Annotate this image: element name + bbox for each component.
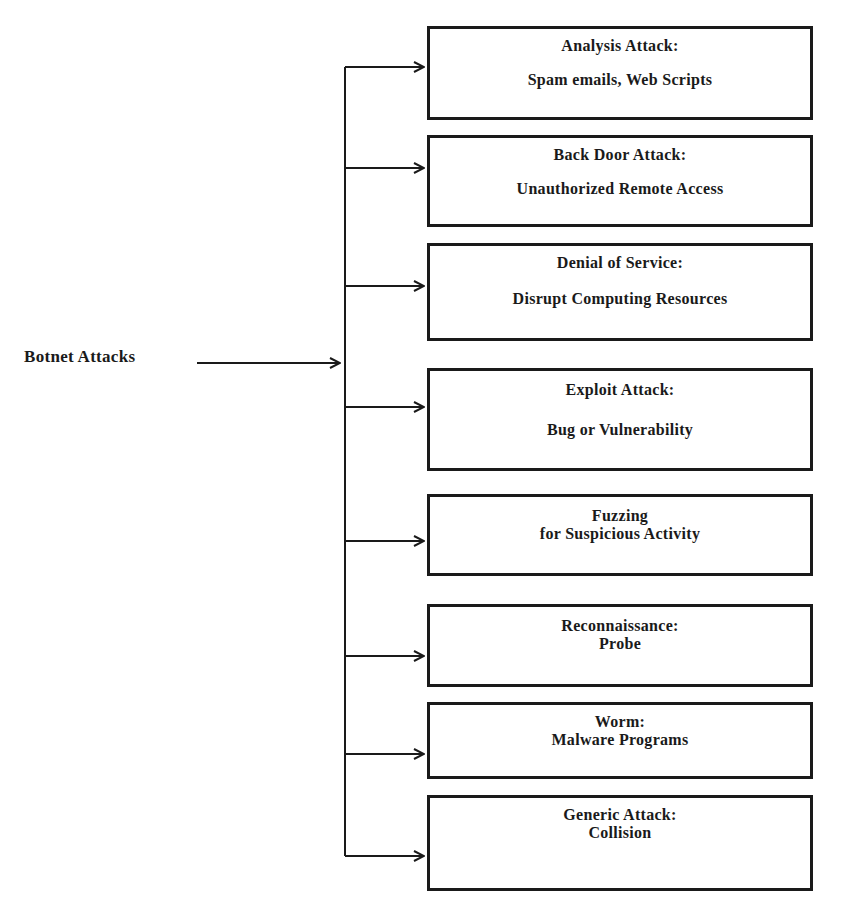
node-subtitle: Malware Programs [551,731,688,749]
node-fuzzing: Fuzzing for Suspicious Activity [427,494,813,576]
node-title: Fuzzing [592,507,648,525]
node-generic-attack: Generic Attack: Collision [427,795,813,891]
node-subtitle: Unauthorized Remote Access [517,180,724,198]
node-subtitle: for Suspicious Activity [540,525,700,543]
node-subtitle: Bug or Vulnerability [547,421,693,439]
node-subtitle: Collision [588,824,651,842]
node-exploit-attack: Exploit Attack: Bug or Vulnerability [427,368,813,471]
node-reconnaissance: Reconnaissance: Probe [427,604,813,687]
node-denial-of-service: Denial of Service: Disrupt Computing Res… [427,243,813,341]
node-title: Back Door Attack: [554,146,687,164]
node-subtitle: Disrupt Computing Resources [513,290,728,308]
node-analysis-attack: Analysis Attack: Spam emails, Web Script… [427,26,813,120]
node-worm: Worm: Malware Programs [427,702,813,779]
node-title: Generic Attack: [563,806,676,824]
node-back-door-attack: Back Door Attack: Unauthorized Remote Ac… [427,135,813,227]
node-title: Reconnaissance: [561,617,678,635]
node-title: Worm: [595,713,645,731]
node-subtitle: Spam emails, Web Scripts [528,71,713,89]
node-title: Exploit Attack: [566,381,675,399]
node-title: Denial of Service: [557,254,683,272]
node-title: Analysis Attack: [561,37,678,55]
node-subtitle: Probe [599,635,641,653]
